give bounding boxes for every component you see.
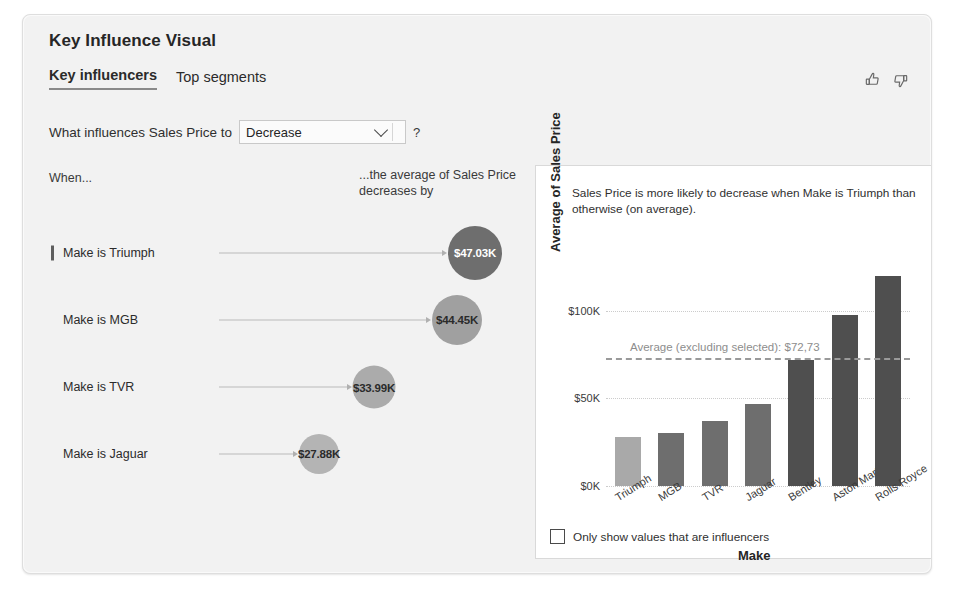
influencer-label[interactable]: Make is TVR — [63, 380, 134, 394]
chart-bar[interactable] — [875, 276, 901, 486]
influencer-label[interactable]: Make is MGB — [63, 313, 138, 327]
feedback-icons — [864, 71, 909, 89]
chart-x-axis-label: Make — [738, 548, 771, 563]
chart-average-label: Average (excluding selected): $72,73 — [630, 341, 820, 353]
influencer-detail-card: ← Sales Price is more likely to decrease… — [535, 165, 932, 559]
chart-gridline — [606, 311, 910, 312]
chart-bar[interactable] — [702, 421, 728, 486]
influencer-arrow — [219, 253, 442, 254]
question-row: What influences Sales Price to Decrease … — [49, 120, 420, 144]
arrow-head-icon — [347, 384, 352, 390]
influencer-arrow — [219, 387, 347, 388]
only-influencers-checkbox-row[interactable]: Only show values that are influencers — [550, 529, 769, 544]
thumbs-down-icon[interactable] — [891, 71, 909, 89]
only-influencers-checkbox[interactable] — [550, 529, 565, 544]
tab-top-segments[interactable]: Top segments — [176, 69, 266, 90]
tab-bar: Key influencers Top segments — [49, 67, 266, 90]
chart-bar[interactable] — [788, 360, 814, 486]
select-value: Decrease — [246, 125, 302, 140]
influencer-bubble[interactable]: $47.03K — [448, 226, 502, 280]
select-divider — [392, 123, 393, 141]
page-title: Key Influence Visual — [49, 31, 216, 51]
chart-bar[interactable] — [658, 433, 684, 486]
detail-description: Sales Price is more likely to decrease w… — [572, 186, 918, 217]
chart-y-tick: $50K — [554, 392, 600, 404]
arrow-head-icon — [442, 250, 447, 256]
chart-average-line — [606, 358, 910, 360]
chart-bar[interactable] — [745, 404, 771, 486]
tab-key-influencers[interactable]: Key influencers — [49, 67, 157, 90]
thumbs-up-icon[interactable] — [864, 71, 882, 89]
when-label: When... — [49, 171, 92, 185]
chart-y-tick: $100K — [554, 305, 600, 317]
selected-indicator — [51, 246, 54, 261]
arrow-head-icon — [426, 317, 431, 323]
influencer-bubble[interactable]: $33.99K — [353, 366, 396, 409]
chevron-down-icon — [374, 123, 388, 137]
influence-direction-select[interactable]: Decrease — [239, 120, 406, 144]
chart-y-axis-label: Average of Sales Price — [548, 52, 563, 252]
average-sales-price-chart: Average of Sales Price $0K$50K$100KTrium… — [550, 252, 920, 552]
average-caption: ...the average of Sales Price decreases … — [359, 167, 519, 199]
only-influencers-label: Only show values that are influencers — [573, 530, 769, 544]
influencer-label[interactable]: Make is Jaguar — [63, 447, 148, 461]
chart-y-tick: $0K — [554, 480, 600, 492]
chart-gridline — [606, 398, 910, 399]
question-label: What influences Sales Price to — [49, 125, 232, 140]
chart-bar[interactable] — [832, 315, 858, 486]
influencer-arrow — [219, 454, 293, 455]
detail-header: ← Sales Price is more likely to decrease… — [550, 186, 918, 217]
help-icon[interactable]: ? — [413, 125, 420, 140]
screenshot-root: Key Influence Visual Key influencers Top… — [0, 0, 961, 605]
influencers-pane: When... ...the average of Sales Price de… — [23, 153, 535, 573]
influencer-label[interactable]: Make is Triumph — [63, 246, 155, 260]
key-influencers-visual-card: Key Influence Visual Key influencers Top… — [22, 14, 932, 574]
influencer-bubble[interactable]: $27.88K — [299, 434, 339, 474]
influencer-arrow — [219, 320, 426, 321]
influencer-bubble[interactable]: $44.45K — [432, 295, 482, 345]
